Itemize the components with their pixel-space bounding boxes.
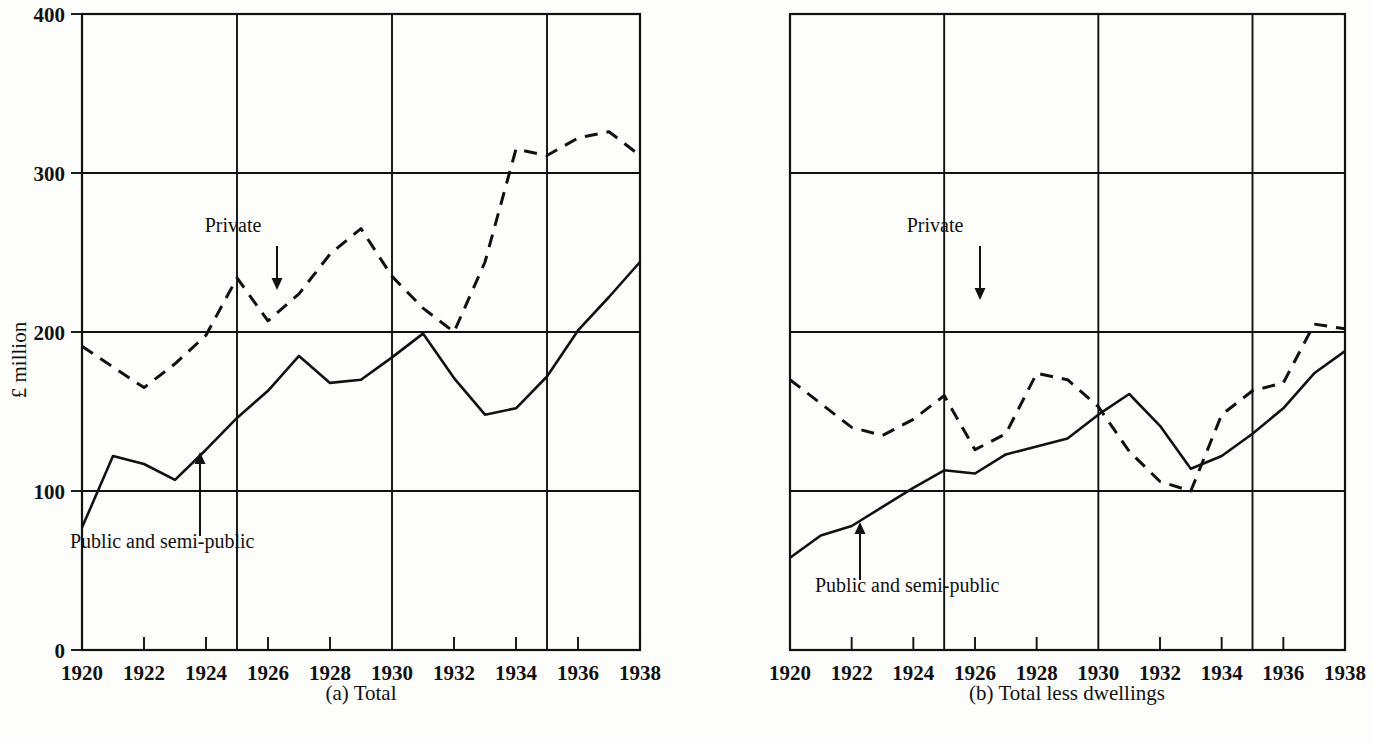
figure-root: 1920192219241926192819301932193419361938… <box>0 0 1373 742</box>
xtick-label-1922: 1922 <box>831 661 873 685</box>
xtick-label-1934: 1934 <box>1201 661 1244 685</box>
public-annotation-label: Public and semi-public <box>815 574 1000 597</box>
xtick-label-1932: 1932 <box>433 661 475 685</box>
public-annotation-label: Public and semi-public <box>70 530 255 553</box>
ytick-label-200: 200 <box>34 321 66 345</box>
xtick-label-1920: 1920 <box>61 661 103 685</box>
xtick-label-1934: 1934 <box>495 661 538 685</box>
xtick-label-1936: 1936 <box>557 661 599 685</box>
xtick-label-1922: 1922 <box>123 661 165 685</box>
ytick-label-400: 400 <box>34 3 66 27</box>
panel-b: 1920192219241926192819301932193419361938… <box>769 14 1366 705</box>
ytick-label-300: 300 <box>34 162 66 186</box>
two-panel-line-chart: 1920192219241926192819301932193419361938… <box>0 0 1373 742</box>
series-private <box>790 324 1345 491</box>
xtick-label-1936: 1936 <box>1262 661 1304 685</box>
series-public-and-semi-public <box>790 351 1345 558</box>
private-arrow-head <box>272 278 283 290</box>
ytick-label-100: 100 <box>34 480 66 504</box>
private-annotation-label: Private <box>205 214 262 236</box>
series-private <box>82 132 640 388</box>
xtick-label-1938: 1938 <box>619 661 661 685</box>
series-public-and-semi-public <box>82 262 640 528</box>
panel-caption: (a) Total <box>325 681 396 705</box>
private-arrow-head <box>975 288 986 300</box>
xtick-label-1924: 1924 <box>892 661 935 685</box>
panel-caption: (b) Total less dwellings <box>969 681 1165 705</box>
ytick-label-0: 0 <box>55 639 66 663</box>
private-annotation-label: Private <box>907 214 964 236</box>
xtick-label-1938: 1938 <box>1324 661 1366 685</box>
xtick-label-1926: 1926 <box>247 661 289 685</box>
xtick-label-1920: 1920 <box>769 661 811 685</box>
y-axis-title: £ million <box>7 321 31 398</box>
xtick-label-1924: 1924 <box>185 661 228 685</box>
panel-a: 1920192219241926192819301932193419361938… <box>7 3 661 705</box>
